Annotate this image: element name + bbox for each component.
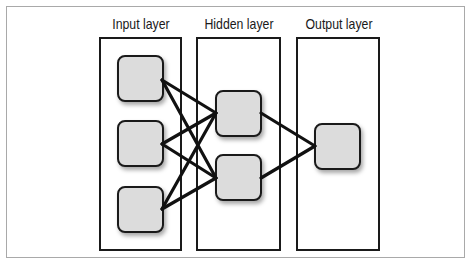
input-layer-label: Input layer — [92, 15, 190, 32]
input-node-3 — [117, 186, 164, 233]
hidden-layer-label: Hidden layer — [190, 15, 288, 32]
input-node-1 — [117, 55, 164, 102]
hidden-layer-box — [196, 37, 281, 251]
output-layer-label: Output layer — [290, 15, 388, 32]
hidden-node-2 — [215, 154, 262, 201]
hidden-node-1 — [215, 90, 262, 137]
input-node-2 — [117, 120, 164, 167]
output-node-1 — [314, 123, 361, 170]
